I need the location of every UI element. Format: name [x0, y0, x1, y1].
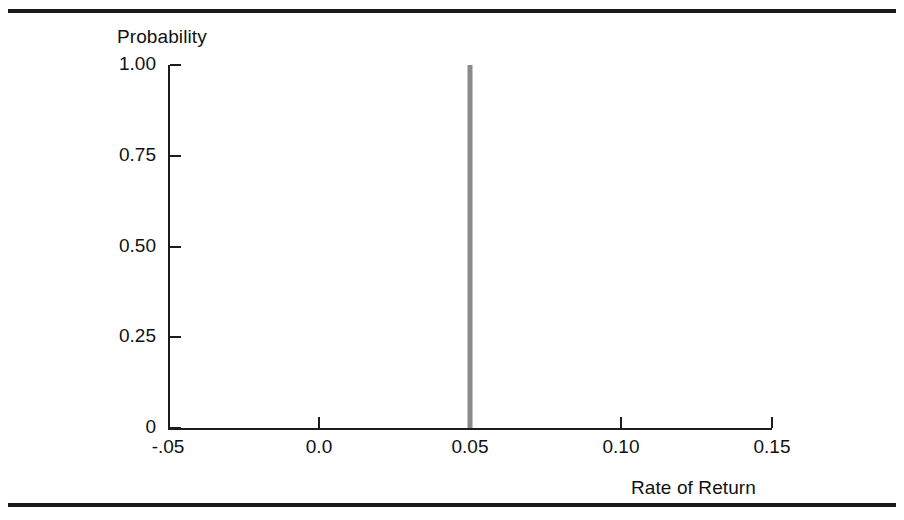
x-axis-title: Rate of Return	[631, 477, 756, 499]
x-tick-label: 0.10	[603, 436, 640, 458]
x-tick-mark	[318, 417, 320, 428]
y-tick-mark: 0	[170, 427, 181, 429]
y-tick-label: 1.00	[119, 53, 156, 75]
y-tick-label: 0.25	[119, 325, 156, 347]
x-tick-label: 0.15	[754, 436, 791, 458]
y-axis-title: Probability	[117, 26, 207, 48]
top-rule	[8, 9, 896, 13]
x-tick-mark	[771, 417, 773, 428]
bottom-rule	[8, 503, 896, 507]
y-tick-label: 0.75	[119, 144, 156, 166]
plot-area: 1.000.750.500.250 -.050.00.050.100.15	[168, 65, 772, 428]
x-tick-label: -.05	[152, 436, 185, 458]
probability-spike-bar	[468, 65, 473, 428]
y-tick-mark: 0.75	[170, 155, 181, 157]
y-tick-label: 0	[145, 416, 156, 438]
x-tick-mark	[620, 417, 622, 428]
y-tick-label: 0.50	[119, 235, 156, 257]
y-tick-mark: 0.50	[170, 246, 181, 248]
y-axis-line	[168, 65, 170, 430]
y-tick-mark: 1.00	[170, 64, 181, 66]
figure-container: Probability Rate of Return 1.000.750.500…	[0, 0, 904, 520]
x-tick-label: 0.0	[306, 436, 332, 458]
x-axis-line	[168, 428, 772, 430]
y-tick-mark: 0.25	[170, 336, 181, 338]
x-tick-label: 0.05	[452, 436, 489, 458]
